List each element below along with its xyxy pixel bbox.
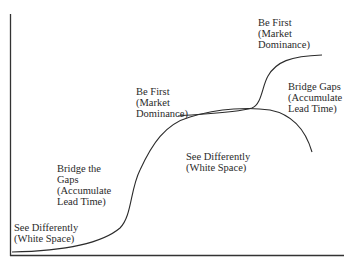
label-line: (Accumulate <box>57 185 111 196</box>
label-bridge-the-gaps: Bridge the Gaps (Accumulate Lead Time) <box>57 163 111 207</box>
label-see-differently-second: See Differently (White Space) <box>186 151 250 173</box>
label-line: Dominance) <box>258 39 310 50</box>
label-see-differently-first: See Differently (White Space) <box>14 222 78 244</box>
label-line: See Differently <box>186 151 250 162</box>
label-line: (White Space) <box>186 162 250 173</box>
label-line: Gaps <box>57 174 111 185</box>
label-line: See Differently <box>14 222 78 233</box>
label-line: Bridge Gaps <box>288 81 342 92</box>
label-line: (Accumulate <box>288 92 342 103</box>
label-be-first-first: Be First (Market Dominance) <box>136 86 188 119</box>
s-curve-diagram: See Differently (White Space) Bridge the… <box>0 0 351 267</box>
label-line: Bridge the <box>57 163 111 174</box>
label-line: (Market <box>258 28 310 39</box>
label-line: (White Space) <box>14 233 78 244</box>
label-line: Lead Time) <box>288 103 342 114</box>
label-be-first-second: Be First (Market Dominance) <box>258 17 310 50</box>
label-bridge-gaps: Bridge Gaps (Accumulate Lead Time) <box>288 81 342 114</box>
label-line: (Market <box>136 97 188 108</box>
label-line: Be First <box>136 86 188 97</box>
label-line: Dominance) <box>136 108 188 119</box>
label-line: Lead Time) <box>57 196 111 207</box>
label-line: Be First <box>258 17 310 28</box>
